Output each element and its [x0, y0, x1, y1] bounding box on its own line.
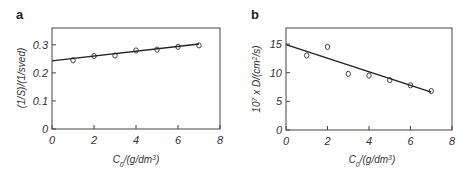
y-tick-label: 5: [276, 95, 283, 107]
x-tick-label: 6: [175, 134, 182, 146]
y-tick-label: 15: [270, 38, 283, 50]
x-tick-label: 2: [90, 134, 97, 146]
y-tick-label: 0.3: [33, 39, 49, 51]
y-tick-label: 0.2: [33, 67, 48, 79]
panel-a-y-axis-label: (1/S)/(1/sved): [16, 48, 27, 109]
data-point: [325, 44, 329, 49]
x-tick-label: 8: [217, 134, 224, 146]
fit-line: [52, 44, 199, 61]
panel-a-frame: [52, 28, 220, 129]
panel-b: b 02468 051015 C0/(g/dm3) 107 x D/(cm2/s…: [251, 7, 456, 168]
panel-b-y-axis-label: 107 x D/(cm2/s): [251, 45, 263, 112]
y-tick-label: 0: [42, 123, 49, 135]
y-tick-label: 0: [276, 124, 283, 136]
panel-b-frame: [286, 28, 452, 130]
data-point: [367, 73, 371, 78]
panel-b-x-ticks: 02468: [283, 126, 456, 147]
y-tick-label: 0.1: [33, 95, 48, 107]
panel-a-x-ticks: 02468: [49, 125, 224, 146]
y-tick-label: 10: [270, 67, 283, 79]
x-tick-label: 4: [133, 134, 139, 146]
panel-a: a 02468 00.10.20.3 C0/(g/dm3) (1/S)/(1/s…: [16, 7, 224, 168]
x-tick-label: 0: [283, 135, 290, 147]
data-point: [305, 53, 309, 58]
data-point: [346, 71, 350, 76]
x-tick-label: 4: [366, 135, 372, 147]
panel-a-x-axis-label: C0/(g/dm3): [113, 154, 160, 168]
x-tick-label: 0: [49, 134, 56, 146]
panel-b-x-axis-label: C0/(g/dm3): [349, 154, 396, 168]
x-tick-label: 8: [449, 135, 456, 147]
figure: a 02468 00.10.20.3 C0/(g/dm3) (1/S)/(1/s…: [0, 0, 467, 176]
fit-line: [286, 45, 431, 93]
panel-a-label: a: [16, 7, 24, 22]
x-tick-label: 6: [407, 135, 414, 147]
panel-a-plot-area: [52, 43, 201, 63]
panel-b-label: b: [251, 7, 259, 22]
panel-a-y-ticks: 00.10.20.3: [33, 39, 56, 135]
x-tick-label: 2: [323, 135, 330, 147]
panel-b-y-ticks: 051015: [270, 38, 290, 136]
panel-b-plot-area: [286, 44, 433, 93]
